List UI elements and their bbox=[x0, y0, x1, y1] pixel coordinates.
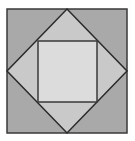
nested-squares-diagram bbox=[0, 0, 135, 141]
inner-square bbox=[38, 41, 97, 102]
diagram-svg bbox=[0, 0, 135, 141]
